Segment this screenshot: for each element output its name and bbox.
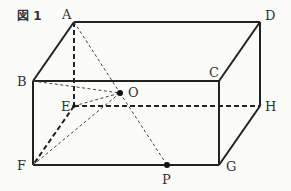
label-o: O [128, 86, 139, 99]
auxiliary-lines [33, 22, 167, 165]
label-e: E [61, 100, 71, 113]
label-d: D [265, 9, 275, 22]
label-c: C [209, 66, 219, 79]
label-b: B [17, 75, 27, 88]
label-a: A [62, 8, 71, 21]
label-p: P [162, 173, 171, 186]
point-e-dot [72, 104, 76, 108]
label-h: H [265, 100, 276, 113]
figure-1-cuboid-diagram: 図 1 A D B C O E H F G P [0, 0, 291, 191]
visible-edges [33, 22, 260, 165]
label-f: F [17, 159, 26, 172]
figure-title: 図 1 [17, 10, 42, 22]
hidden-edges [33, 22, 260, 165]
point-o-dot [117, 90, 123, 96]
cuboid-drawing [0, 0, 291, 191]
label-g: G [226, 160, 236, 173]
point-p-dot [164, 162, 170, 168]
